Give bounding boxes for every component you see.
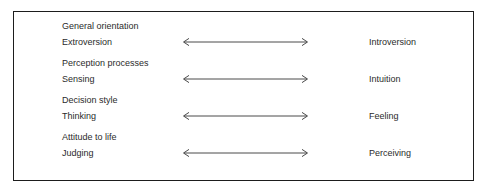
dimension-row: General orientation Extroversion Introve… [62,21,469,58]
dimension-right-pole-label: Perceiving [369,147,411,159]
dimension-right-pole-label: Intuition [369,73,401,85]
dimension-row: Decision style Thinking Feeling [62,95,469,132]
dimension-left-pole-label: Extroversion [62,36,112,48]
dimension-category-label: Perception processes [62,58,149,69]
dimension-category-label: Attitude to life [62,132,117,143]
left-right-arrow-icon [181,35,310,49]
dimension-category-label: Decision style [62,95,118,106]
dimension-category-label: General orientation [62,21,139,32]
dimension-left-pole-label: Judging [62,147,94,159]
dimension-left-pole-label: Thinking [62,110,96,122]
personality-dimensions-diagram: General orientation Extroversion Introve… [13,11,474,181]
dimension-list: General orientation Extroversion Introve… [62,21,469,176]
dimension-row: Attitude to life Judging Perceiving [62,132,469,169]
left-right-arrow-icon [181,146,310,160]
dimension-left-pole-label: Sensing [62,73,95,85]
dimension-right-pole-label: Feeling [369,110,399,122]
dimension-right-pole-label: Introversion [369,36,416,48]
dimension-pole-line: Extroversion Introversion [62,35,469,49]
left-right-arrow-icon [181,72,310,86]
dimension-pole-line: Judging Perceiving [62,146,469,160]
dimension-row: Perception processes Sensing Intuition [62,58,469,95]
dimension-pole-line: Sensing Intuition [62,72,469,86]
left-right-arrow-icon [181,109,310,123]
dimension-pole-line: Thinking Feeling [62,109,469,123]
